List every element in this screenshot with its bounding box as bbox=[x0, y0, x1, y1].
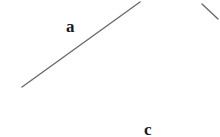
diagram-canvas: a c bbox=[0, 0, 220, 137]
diagram-figure bbox=[0, 0, 220, 137]
line-segment-a bbox=[22, 2, 140, 87]
label-segment-c: c bbox=[144, 121, 152, 137]
line-segment-corner bbox=[202, 4, 218, 19]
label-segment-a: a bbox=[66, 18, 75, 35]
